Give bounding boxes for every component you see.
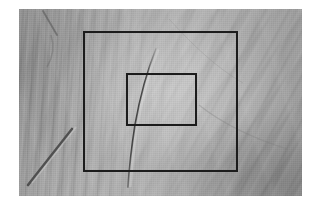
upper-left-streak bbox=[43, 11, 57, 35]
upper-left-fold-edge bbox=[47, 35, 53, 67]
lower-left-streak-highlight bbox=[32, 127, 76, 183]
inner-annotation-rectangle[interactable] bbox=[126, 73, 197, 126]
lower-left-streak bbox=[28, 129, 72, 185]
image-canvas bbox=[0, 0, 321, 205]
